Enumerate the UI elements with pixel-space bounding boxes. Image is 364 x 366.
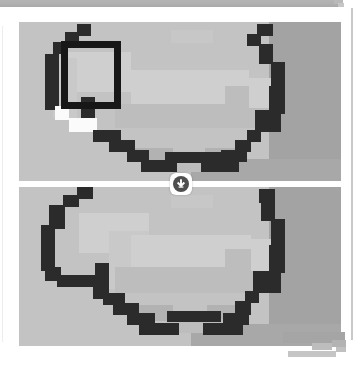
image-comparison-viewer: [19, 22, 341, 346]
mask-outline-pixel: [271, 62, 285, 88]
mask-outline-pixel: [45, 54, 59, 82]
panel-top[interactable]: [19, 22, 341, 181]
toolbar-strip[interactable]: [0, 0, 338, 7]
mask-outline-pixel: [257, 24, 273, 36]
bottom-edge-decoration: [332, 340, 346, 347]
bottom-edge-decoration: [312, 343, 332, 350]
mask-outline-pixel: [139, 323, 179, 335]
watermark-patch: [171, 195, 213, 208]
mask-outline-pixel: [77, 24, 91, 36]
mask-outline-pixel: [63, 195, 79, 207]
watermark-patch: [171, 30, 213, 43]
mask-outline-pixel: [261, 201, 275, 221]
annotation-rectangle[interactable]: [61, 41, 121, 109]
mask-outline-pixel: [259, 189, 275, 203]
panel-top-canvas: [19, 22, 341, 181]
panel-bottom[interactable]: [19, 187, 341, 346]
bottom-edge-decoration: [336, 347, 346, 352]
scroll-down-badge[interactable]: [170, 173, 192, 195]
arrow-down-circle-icon: [173, 176, 189, 192]
mask-outline-pixel: [259, 44, 273, 64]
app-root: [0, 0, 364, 366]
mask-outline-pixel: [269, 86, 285, 114]
left-edge-rule: [2, 26, 3, 342]
right-edge-rule: [351, 8, 353, 340]
mask-outline-pixel: [41, 225, 55, 271]
bottom-edge-decoration: [288, 351, 336, 357]
mask-outline-pixel: [235, 301, 251, 315]
panel-bottom-canvas: [19, 187, 341, 346]
mask-outline-pixel: [269, 245, 285, 273]
mask-outline-pixel: [253, 271, 281, 293]
mask-outline-pixel: [167, 311, 221, 322]
mask-outline-pixel: [271, 219, 285, 247]
mask-outline-pixel: [77, 187, 93, 199]
toolbar-strip-tail-secondary: [338, 3, 344, 7]
